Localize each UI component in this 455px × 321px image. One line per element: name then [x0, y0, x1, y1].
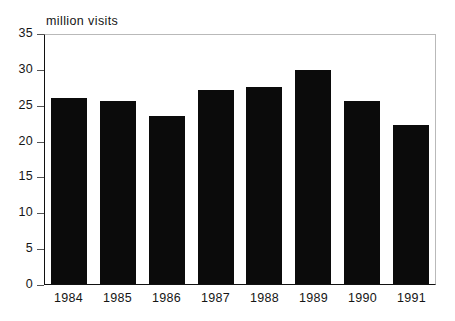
bar-slot-1988 [246, 35, 282, 284]
y-axis-tick-mark [37, 249, 44, 250]
y-axis-tick-label: 30 [18, 62, 33, 76]
bar-series [45, 35, 435, 284]
y-axis-title: million visits [46, 14, 118, 28]
y-axis-tick-mark [37, 70, 44, 71]
y-axis-tick-label: 5 [26, 241, 33, 255]
y-axis-tick-label: 10 [18, 205, 33, 219]
bar-1986 [149, 116, 185, 284]
x-axis-tick-label-1990: 1990 [345, 291, 381, 305]
y-axis-tick-mark [37, 34, 44, 35]
x-axis-tick-label-1989: 1989 [296, 291, 332, 305]
bar-1988 [246, 87, 282, 284]
y-axis-tick-mark [37, 142, 44, 143]
plot-area [44, 34, 436, 285]
bar-1984 [51, 98, 87, 284]
x-axis-tick-label-1987: 1987 [198, 291, 234, 305]
y-axis-tick-label: 0 [26, 277, 33, 291]
x-axis-tick-label-1985: 1985 [100, 291, 136, 305]
bar-1985 [100, 101, 136, 284]
x-axis-tick-label-1984: 1984 [51, 291, 87, 305]
bar-slot-1985 [100, 35, 136, 284]
y-axis-tick-mark [37, 177, 44, 178]
x-axis-tick-label-1988: 1988 [247, 291, 283, 305]
x-axis-tick-label-1991: 1991 [394, 291, 430, 305]
chart-figure: million visits 1984198519861987198819891… [0, 0, 455, 321]
bar-slot-1990 [344, 35, 380, 284]
y-axis-tick-label: 35 [18, 26, 33, 40]
y-axis-tick-mark [37, 106, 44, 107]
bar-slot-1987 [198, 35, 234, 284]
bar-1990 [344, 101, 380, 284]
x-axis-tick-label-1986: 1986 [149, 291, 185, 305]
y-axis-tick-label: 15 [18, 169, 33, 183]
bar-1989 [295, 70, 331, 284]
bar-slot-1986 [149, 35, 185, 284]
bar-1991 [393, 125, 429, 284]
y-axis-tick-mark [37, 285, 44, 286]
y-axis-tick-label: 25 [18, 98, 33, 112]
bar-slot-1989 [295, 35, 331, 284]
y-axis-tick-label: 20 [18, 134, 33, 148]
bar-slot-1991 [393, 35, 429, 284]
x-axis-tick-labels: 19841985198619871988198919901991 [44, 291, 436, 305]
y-axis-tick-mark [37, 213, 44, 214]
bar-1987 [198, 90, 234, 284]
bar-slot-1984 [51, 35, 87, 284]
